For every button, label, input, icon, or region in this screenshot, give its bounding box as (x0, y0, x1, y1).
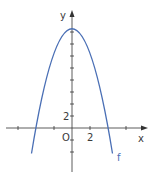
curve-label-f: f (117, 152, 121, 163)
y-axis-arrow-icon (70, 10, 75, 17)
y-axis-label: y (60, 10, 66, 21)
x-axis-label: x (138, 133, 144, 144)
y-tick-label-2: 2 (63, 111, 69, 122)
x-tick-label-2: 2 (87, 132, 93, 143)
origin-label: O (62, 132, 70, 143)
coordinate-plot: y x O 2 2 f (0, 0, 155, 182)
x-axis-arrow-icon (141, 126, 148, 131)
